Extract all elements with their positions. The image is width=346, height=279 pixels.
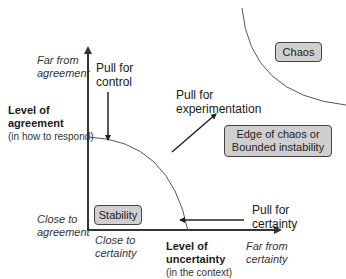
zone-chaos: Chaos	[275, 42, 322, 62]
pull-experimentation-label: Pull for experimentation	[176, 88, 261, 116]
zone-edge-of-chaos: Edge of chaos or Bounded instability	[224, 125, 332, 157]
x-axis-right-label: Far from certainty	[246, 240, 288, 266]
y-axis-bottom-label: Close to agreement	[37, 213, 90, 239]
pull-certainty-label: Pull for certainty	[252, 203, 297, 231]
x-axis-title: Level of uncertainty (in the context)	[166, 240, 232, 279]
pull-control-label: Pull for control	[96, 61, 133, 89]
y-axis-top-label: Far from agreement	[37, 54, 90, 80]
pull-experimentation-arrow	[172, 114, 216, 152]
zone-stability: Stability	[94, 205, 142, 225]
x-axis-left-label: Close to certainty	[95, 234, 137, 260]
y-axis-title: Level of agreement (in how to respond)	[8, 104, 94, 143]
